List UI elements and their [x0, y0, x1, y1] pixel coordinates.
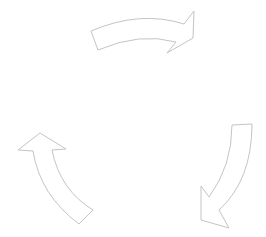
- arrow-left-up-icon: [18, 133, 93, 224]
- arrow-right-down-icon: [201, 124, 252, 228]
- cycle-diagram: [0, 0, 266, 237]
- diagram-svg: [0, 0, 266, 237]
- arrow-right-shape: [201, 124, 252, 228]
- arrow-top-shape: [91, 11, 194, 53]
- arrow-top-right-icon: [91, 11, 194, 53]
- arrow-left-shape: [18, 133, 93, 224]
